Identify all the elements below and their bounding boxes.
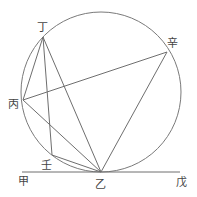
segment-ren-yi (52, 155, 101, 172)
label-xin: 辛 (167, 38, 178, 49)
label-ren: 壬 (41, 160, 52, 171)
label-bing: 丙 (8, 99, 19, 110)
label-ding: 丁 (37, 22, 48, 33)
segment-ding-bing (23, 37, 43, 100)
label-yi: 乙 (95, 179, 106, 190)
diagram-svg (0, 0, 197, 197)
segment-xin-yi (101, 52, 167, 172)
circle (21, 12, 181, 172)
geometry-diagram: 丁 丙 壬 乙 辛 甲 戊 (0, 0, 197, 197)
label-wu: 戊 (176, 177, 187, 188)
label-jia: 甲 (18, 176, 29, 187)
